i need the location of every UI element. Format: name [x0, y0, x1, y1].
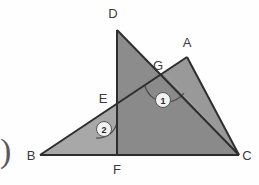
partial-parenthesis-icon: ) — [0, 132, 11, 170]
vertex-label-C: C — [242, 148, 251, 163]
vertex-label-E: E — [99, 91, 108, 106]
angle-mark-2-label: 2 — [101, 125, 106, 135]
vertex-label-G: G — [153, 58, 163, 73]
vertex-label-F: F — [113, 162, 121, 177]
vertex-label-D: D — [108, 6, 117, 21]
angle-mark-2: 2 — [97, 122, 112, 137]
angle-mark-1: 1 — [156, 93, 171, 108]
angle-mark-1-label: 1 — [160, 96, 165, 106]
vertex-label-A: A — [183, 35, 192, 50]
geometry-figure: 1 2 D A G E B F C ) — [0, 0, 259, 185]
vertex-label-B: B — [27, 148, 36, 163]
diagram-canvas: 1 2 D A G E B F C ) — [0, 0, 259, 185]
